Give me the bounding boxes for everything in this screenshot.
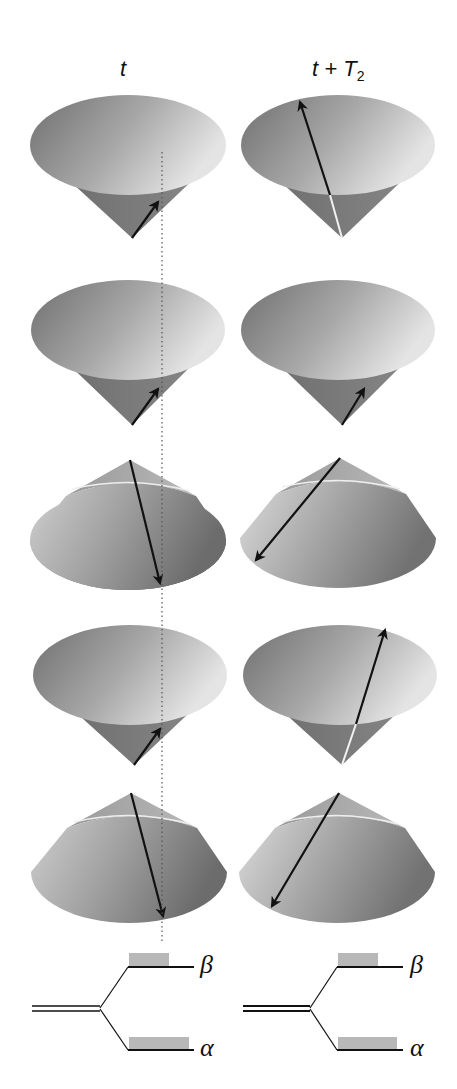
cone-row1-right — [241, 95, 435, 238]
level-label-beta-right: β — [410, 950, 423, 980]
cone-row1-left — [30, 95, 226, 238]
cone-row2-left — [31, 280, 225, 425]
cone-row3-left — [30, 460, 226, 590]
cone-row3-right — [240, 458, 436, 588]
cone-row2-right — [241, 280, 435, 425]
cone-row5-right — [239, 793, 435, 923]
cone-row4-left — [33, 625, 227, 765]
cone-row4-right — [243, 625, 437, 765]
level-label-alpha-right: α — [410, 1033, 424, 1063]
energy-diagram-left — [32, 953, 194, 1050]
cone-row5-left — [31, 793, 227, 923]
level-label-beta-left: β — [200, 950, 213, 980]
population-bar-beta — [338, 953, 378, 966]
energy-diagram-right — [243, 953, 403, 1050]
precession-cone-figure — [0, 0, 457, 1089]
population-bar-alpha — [129, 1037, 189, 1050]
population-bar-beta — [129, 953, 169, 966]
level-label-alpha-left: α — [200, 1033, 214, 1063]
population-bar-alpha — [338, 1037, 397, 1050]
